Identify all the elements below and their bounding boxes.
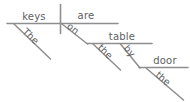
prep-object-2-word: door: [153, 55, 177, 66]
sentence-diagram: keys are table door The on the by the: [0, 0, 190, 102]
preposition-2-word: by: [122, 43, 138, 59]
prep-object-1-word: table: [109, 31, 135, 42]
prep-object-1-modifier-word: the: [96, 42, 115, 61]
subject-word: keys: [22, 11, 46, 22]
subject-modifier-word: The: [20, 25, 42, 46]
sentence-diagram-canvas: keys are table door The on the by the: [0, 0, 190, 102]
prep-object-2-modifier-word: the: [154, 69, 173, 88]
verb-word: are: [78, 10, 95, 21]
preposition-1-word: on: [65, 20, 81, 36]
